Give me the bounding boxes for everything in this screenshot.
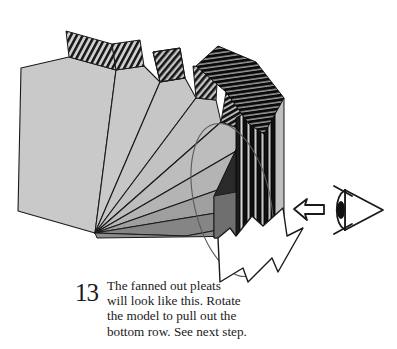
caption-line-4: bottom row. See next step. — [107, 324, 247, 339]
origami-step-figure: 13 The fanned out pleats will look like … — [0, 0, 397, 349]
caption-line-2: will look like this. Rotate — [107, 293, 247, 308]
step-caption-block: 13 The fanned out pleats will look like … — [75, 278, 375, 339]
step-number: 13 — [75, 278, 107, 305]
caption-line-3: the model to pull out the — [107, 308, 247, 323]
caption-line-1: The fanned out pleats — [107, 278, 247, 293]
left-arrow-icon — [294, 199, 324, 220]
step-caption-text: The fanned out pleats will look like thi… — [107, 278, 247, 339]
eye-view-direction-icon — [334, 186, 383, 234]
